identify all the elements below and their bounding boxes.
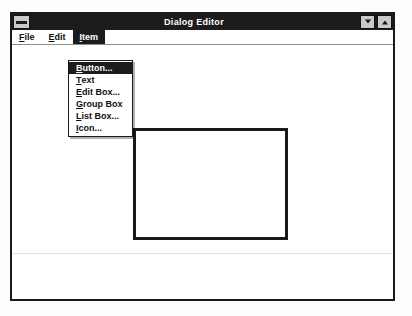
- menu-item-button[interactable]: Button...: [69, 62, 132, 74]
- menubar-item-edit[interactable]: Edit: [42, 30, 73, 44]
- menu-item-list-box[interactable]: List Box...: [69, 110, 132, 122]
- maximize-button[interactable]: [377, 15, 392, 29]
- item-menu-dropdown: Button... Text Edit Box... Group Box Lis…: [68, 60, 133, 137]
- menu-item-group-box-accel: G: [76, 98, 83, 110]
- dialog-outline-shape[interactable]: [133, 128, 288, 240]
- window-controls: [358, 15, 392, 29]
- title-bar[interactable]: Dialog Editor: [12, 14, 393, 30]
- menu-bar: File Edit Item: [12, 30, 393, 45]
- menubar-item-item[interactable]: Item: [73, 30, 106, 44]
- canvas-guide-line: [12, 253, 393, 254]
- menubar-item-edit-rest: dit: [55, 32, 66, 42]
- menu-item-list-box-rest: ist Box...: [82, 110, 120, 122]
- menu-item-icon[interactable]: Icon...: [69, 122, 132, 134]
- window-title: Dialog Editor: [30, 14, 358, 30]
- system-menu-icon[interactable]: [13, 15, 30, 29]
- menu-item-edit-box-rest: dit Box...: [82, 86, 120, 98]
- menubar-item-file[interactable]: File: [12, 30, 42, 44]
- menu-item-button-rest: utton...: [83, 62, 113, 74]
- screen: Dialog Editor File Edit Item: [0, 0, 412, 316]
- menu-item-edit-box[interactable]: Edit Box...: [69, 86, 132, 98]
- menubar-item-item-rest: tem: [82, 32, 98, 42]
- menu-item-group-box-rest: roup Box: [83, 98, 123, 110]
- menu-item-text[interactable]: Text: [69, 74, 132, 86]
- minimize-button[interactable]: [360, 15, 375, 29]
- menubar-item-file-rest: ile: [25, 32, 35, 42]
- editor-canvas[interactable]: Button... Text Edit Box... Group Box Lis…: [12, 45, 393, 299]
- menu-item-icon-rest: con...: [79, 122, 103, 134]
- menu-item-group-box[interactable]: Group Box: [69, 98, 132, 110]
- chevron-up-icon: [382, 20, 388, 24]
- dialog-editor-window: Dialog Editor File Edit Item: [10, 12, 395, 301]
- menu-item-text-rest: ext: [82, 74, 95, 86]
- chevron-down-icon: [365, 20, 371, 24]
